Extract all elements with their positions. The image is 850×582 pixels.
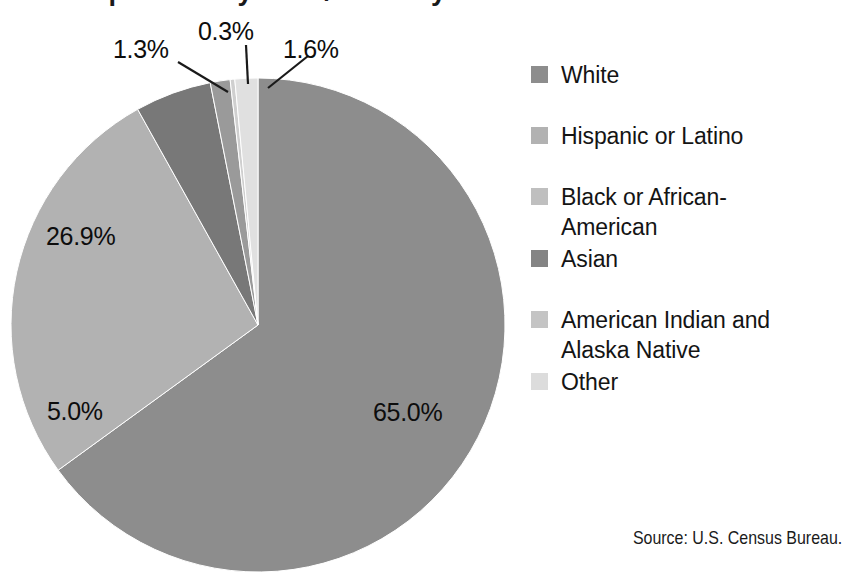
legend-label: Asian (561, 244, 618, 274)
legend-item-american-indian-and-alaska-native: American Indian and Alaska Native (531, 305, 841, 365)
source-note: Source: U.S. Census Bureau. (633, 527, 842, 549)
legend-swatch-icon (531, 127, 548, 144)
slice-value-american-indian-and-alaska-native: 0.3% (198, 17, 254, 46)
legend-swatch-icon (531, 373, 548, 390)
legend-label: Black or African-American (561, 182, 806, 242)
slice-value-hispanic-or-latino: 26.9% (46, 222, 115, 251)
slice-value-white: 65.0% (373, 398, 442, 427)
legend-swatch-icon (531, 188, 548, 205)
legend-item-black-or-african-american: Black or African-American (531, 182, 841, 242)
legend-label: White (561, 60, 619, 90)
legend-label: Other (561, 367, 618, 397)
legend-swatch-icon (531, 66, 548, 83)
slice-value-black-or-african-american: 5.0% (47, 397, 103, 426)
legend-item-white: White (531, 60, 841, 90)
pie-slice-group (11, 78, 505, 572)
slice-value-other: 1.6% (283, 35, 339, 64)
legend-swatch-icon (531, 250, 548, 267)
pie-graphic (0, 0, 520, 582)
legend-item-other: Other (531, 367, 841, 397)
pie-chart-figure: Population by Race/Ethnicity 65.0% 26.9%… (0, 0, 850, 582)
legend-label: Hispanic or Latino (561, 121, 743, 151)
chart-legend: White Hispanic or Latino Black or Africa… (531, 60, 841, 397)
legend-swatch-icon (531, 311, 548, 328)
legend-item-hispanic-or-latino: Hispanic or Latino (531, 121, 841, 151)
slice-value-asian: 1.3% (113, 35, 169, 64)
legend-item-asian: Asian (531, 244, 841, 274)
legend-label: American Indian and Alaska Native (561, 305, 811, 365)
